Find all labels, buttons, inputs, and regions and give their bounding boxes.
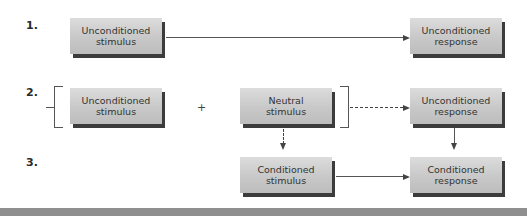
conditioned-response-box: Conditioned response: [410, 157, 502, 193]
bracket-right: [348, 86, 349, 128]
box-label: Conditioned: [427, 164, 484, 175]
box-label: stimulus: [96, 36, 136, 47]
step-number-2: 2.: [26, 86, 38, 99]
box-label: response: [434, 175, 477, 186]
unconditioned-stimulus-box: Unconditioned stimulus: [70, 18, 162, 54]
box-label: Unconditioned: [422, 95, 491, 106]
plus-operator: +: [197, 101, 206, 114]
bottom-border-bar: [0, 208, 527, 216]
dashed-connector-vertical: [283, 129, 284, 144]
connector-line-vertical: [454, 128, 455, 144]
bracket-right-bottom: [340, 127, 349, 128]
bracket-left-bottom: [54, 127, 63, 128]
bracket-left-top: [54, 86, 63, 87]
bracket-left-tick: [46, 107, 54, 108]
box-label: stimulus: [96, 106, 136, 117]
connector-line: [336, 176, 404, 177]
box-label: Unconditioned: [82, 95, 151, 106]
connector-line: [166, 37, 404, 38]
neutral-stimulus-box: Neutral stimulus: [240, 88, 332, 124]
conditioned-stimulus-box: Conditioned stimulus: [240, 157, 332, 193]
step-number-3: 3.: [26, 156, 38, 169]
box-label: Unconditioned: [82, 25, 151, 36]
arrow-down-icon: [280, 143, 286, 150]
step-number-1: 1.: [26, 19, 38, 32]
arrow-right-icon: [403, 105, 410, 111]
dashed-connector: [350, 107, 403, 108]
box-label: stimulus: [266, 175, 306, 186]
box-label: Conditioned: [257, 164, 314, 175]
bracket-right-top: [340, 86, 349, 87]
arrow-right-icon: [403, 174, 410, 180]
unconditioned-stimulus-box: Unconditioned stimulus: [70, 88, 162, 124]
unconditioned-response-box: Unconditioned response: [410, 88, 502, 124]
box-label: response: [434, 106, 477, 117]
box-label: stimulus: [266, 106, 306, 117]
box-label: Neutral: [268, 95, 303, 106]
bracket-left: [54, 86, 55, 128]
box-label: response: [434, 36, 477, 47]
arrow-down-icon: [451, 143, 457, 150]
unconditioned-response-box: Unconditioned response: [410, 18, 502, 54]
arrow-right-icon: [403, 35, 410, 41]
box-label: Unconditioned: [422, 25, 491, 36]
